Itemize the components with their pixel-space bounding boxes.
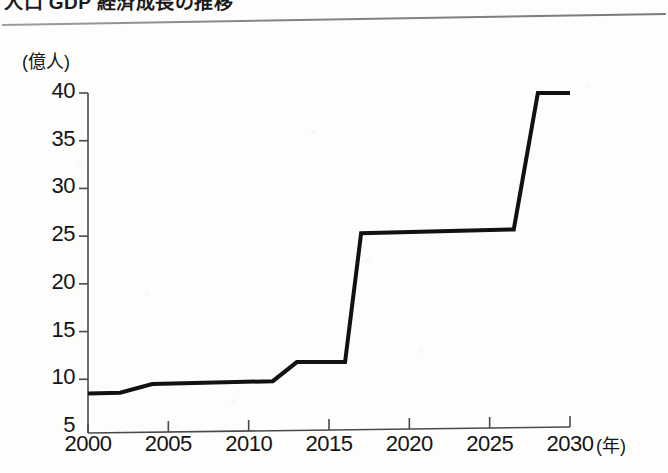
y-axis-tick-label: 35 (29, 126, 75, 152)
chart-plot-area (0, 0, 668, 473)
x-axis-tick-label: 2015 (286, 431, 372, 457)
x-axis-tick-label: 2020 (366, 431, 452, 457)
x-axis-tick-label: 2025 (447, 431, 533, 457)
chart-series-group (88, 93, 570, 394)
chart-axes (79, 93, 570, 433)
x-axis-tick-label: 2005 (125, 431, 211, 457)
x-axis-tick-label: 2000 (45, 431, 131, 457)
y-axis-tick-label: 10 (29, 364, 75, 390)
y-axis-tick-label: 15 (29, 317, 75, 343)
y-axis-tick-label: 30 (29, 173, 75, 199)
x-axis-tick-label: 2030 (527, 431, 613, 457)
y-axis-tick-label: 25 (29, 221, 75, 247)
y-axis-tick-label: 40 (29, 78, 75, 104)
y-axis-tick-label: 20 (29, 269, 75, 295)
line-chart: (億人) (年) 510152025303540 200020052010201… (0, 0, 668, 473)
x-axis-tick-label: 2010 (206, 431, 292, 457)
